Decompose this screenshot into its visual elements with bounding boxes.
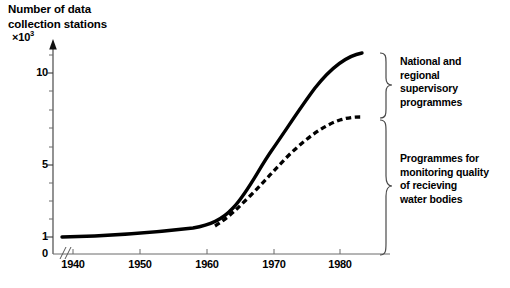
x-axis-ticks	[73, 249, 340, 254]
chart-figure: Number of data collection stations ×103 …	[0, 0, 510, 288]
y-axis-minor-ticks	[49, 55, 53, 219]
y-axis-major-ticks	[46, 73, 53, 237]
chart-plot-area	[0, 0, 510, 288]
series-line-solid	[62, 53, 362, 237]
y-axis-arrowhead	[49, 39, 57, 50]
series-line-dashed	[215, 117, 362, 226]
x-axis-break-icon	[60, 247, 71, 259]
brace-lower	[380, 120, 392, 255]
brace-upper	[380, 53, 392, 118]
